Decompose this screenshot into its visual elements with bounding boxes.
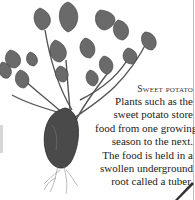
caption-line: swollen underground xyxy=(95,162,193,175)
caption: Sweet potato Plants such as the sweet po… xyxy=(95,84,193,189)
page-edge-shading xyxy=(0,125,3,153)
caption-line: The food is held in a xyxy=(95,149,193,162)
column-rule xyxy=(193,0,194,200)
leaves xyxy=(0,2,156,88)
pen-icon xyxy=(172,178,195,200)
caption-line: sweet potato store xyxy=(95,108,193,121)
roots xyxy=(44,165,78,194)
caption-line: food from one growing xyxy=(95,122,193,135)
caption-line: Plants such as the xyxy=(95,95,193,108)
book-page: Sweet potato Plants such as the sweet po… xyxy=(0,0,195,200)
tuber xyxy=(44,108,78,168)
caption-line: season to the next. xyxy=(95,135,193,148)
caption-title: Sweet potato xyxy=(95,84,193,95)
